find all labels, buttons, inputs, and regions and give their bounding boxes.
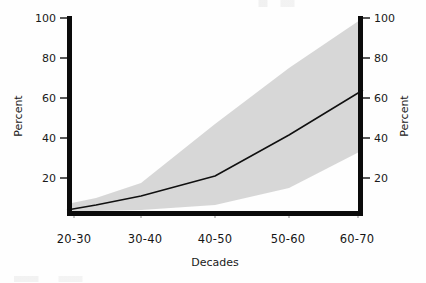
figure-root: 100 80 60 40 20 Percent 100 80 60 40 20 … (0, 0, 426, 283)
y-left-label-60: 60 (42, 92, 56, 105)
scan-artifact-top-edge (250, 0, 370, 7)
confidence-band (67, 18, 363, 212)
y-left-label-40: 40 (42, 132, 56, 145)
y-right-label-40: 40 (374, 132, 388, 145)
y-right-label-80: 80 (374, 52, 388, 65)
x-axis-title: Decades (191, 256, 239, 269)
y-right-label-100: 100 (374, 12, 395, 25)
x-label-30-40: 30-40 (128, 232, 162, 246)
x-label-40-50: 40-50 (198, 232, 232, 246)
y-right-label-20: 20 (374, 172, 388, 185)
x-label-50-60: 50-60 (271, 232, 305, 246)
y-right-label-60: 60 (374, 92, 388, 105)
x-label-20-30: 20-30 (57, 232, 91, 246)
scan-artifact-caption-remnant (14, 276, 138, 282)
percent-by-decade-line-chart: 100 80 60 40 20 Percent 100 80 60 40 20 … (0, 0, 426, 283)
y-left-label-80: 80 (42, 52, 56, 65)
y-left-label-20: 20 (42, 172, 56, 185)
y-right-axis-title: Percent (398, 95, 411, 137)
y-left-axis-title: Percent (12, 95, 25, 137)
x-label-60-70: 60-70 (340, 232, 374, 246)
y-left-label-100: 100 (35, 12, 56, 25)
